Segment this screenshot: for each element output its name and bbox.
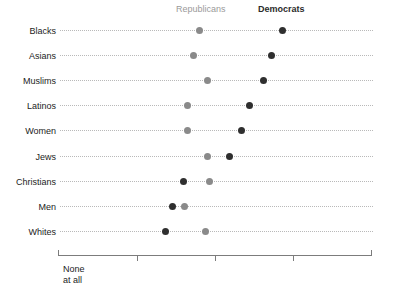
democrat-dot[interactable] — [162, 228, 169, 235]
republican-dot[interactable] — [196, 27, 203, 34]
chart-row: Jews — [0, 150, 393, 164]
legend-democrats: Democrats — [258, 4, 305, 14]
row-label: Men — [38, 200, 56, 214]
discrimination-dot-plot: Republicans Democrats BlacksAsiansMuslim… — [0, 0, 393, 297]
axis-tick-3 — [293, 256, 294, 261]
row-dotted-line — [60, 105, 373, 106]
row-label: Whites — [28, 225, 56, 239]
axis-tick-2 — [215, 256, 216, 261]
democrat-dot[interactable] — [260, 77, 267, 84]
democrat-dot[interactable] — [238, 127, 245, 134]
row-label: Latinos — [27, 99, 56, 113]
row-dotted-line — [60, 55, 373, 56]
chart-row: Latinos — [0, 99, 393, 113]
row-dotted-line — [60, 80, 373, 81]
row-label: Asians — [29, 49, 56, 63]
row-dotted-line — [60, 181, 373, 182]
row-dotted-line — [60, 231, 373, 232]
republican-dot[interactable] — [204, 77, 211, 84]
chart-row: Christians — [0, 175, 393, 189]
democrat-dot[interactable] — [226, 153, 233, 160]
democrat-dot[interactable] — [279, 27, 286, 34]
row-dotted-line — [60, 156, 373, 157]
row-label: Muslims — [23, 74, 56, 88]
chart-row: Asians — [0, 49, 393, 63]
chart-row: Whites — [0, 225, 393, 239]
republican-dot[interactable] — [202, 228, 209, 235]
democrat-dot[interactable] — [268, 52, 275, 59]
republican-dot[interactable] — [204, 153, 211, 160]
axis-tick-1 — [137, 256, 138, 261]
republican-dot[interactable] — [184, 102, 191, 109]
chart-row: Blacks — [0, 24, 393, 38]
axis-label-left-line1: None — [63, 264, 85, 275]
republican-dot[interactable] — [190, 52, 197, 59]
democrat-dot[interactable] — [246, 102, 253, 109]
row-label: Jews — [35, 150, 56, 164]
axis-cap-right — [371, 250, 372, 256]
row-label: Blacks — [29, 24, 56, 38]
republican-dot[interactable] — [181, 203, 188, 210]
axis-label-left-line2: at all — [63, 275, 82, 286]
row-label: Women — [25, 124, 56, 138]
chart-row: Muslims — [0, 74, 393, 88]
republican-dot[interactable] — [184, 127, 191, 134]
republican-dot[interactable] — [206, 178, 213, 185]
row-label: Christians — [16, 175, 56, 189]
chart-row: Men — [0, 200, 393, 214]
axis-cap-left — [58, 250, 59, 256]
democrat-dot[interactable] — [180, 178, 187, 185]
chart-row: Women — [0, 124, 393, 138]
democrat-dot[interactable] — [169, 203, 176, 210]
row-dotted-line — [60, 130, 373, 131]
legend-republicans: Republicans — [176, 4, 226, 14]
row-dotted-line — [60, 206, 373, 207]
row-dotted-line — [60, 30, 373, 31]
